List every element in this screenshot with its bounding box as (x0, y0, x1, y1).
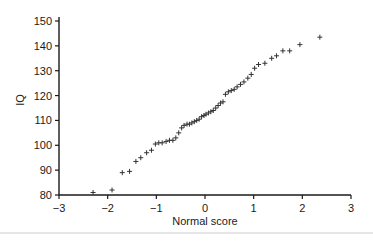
x-tick-label: −2 (101, 202, 114, 214)
y-tick-label: 120 (34, 90, 52, 102)
plus-marker (280, 48, 285, 53)
plus-marker (206, 110, 211, 115)
plus-marker (182, 123, 187, 128)
plus-marker (144, 150, 149, 155)
plus-marker (287, 48, 292, 53)
plus-marker (238, 82, 243, 87)
plus-marker (213, 106, 218, 111)
y-tick-label: 80 (40, 189, 52, 201)
axes: −3−2−101238090100110120130140150 (34, 15, 354, 214)
normal-probability-plot: −3−2−101238090100110120130140150 Normal … (0, 0, 373, 242)
plus-marker (138, 155, 143, 160)
plus-marker (176, 130, 181, 135)
x-tick-label: −3 (53, 202, 66, 214)
plus-marker (256, 62, 261, 67)
plus-marker (179, 125, 184, 130)
plus-marker (173, 135, 178, 140)
plus-marker (226, 89, 231, 94)
plus-marker (91, 190, 96, 195)
y-tick-label: 140 (34, 40, 52, 52)
plus-marker (235, 84, 240, 89)
plus-marker (297, 42, 302, 47)
plus-marker (197, 117, 202, 122)
plus-marker (218, 101, 223, 106)
plus-marker (223, 92, 228, 97)
plus-marker (252, 66, 257, 71)
plus-marker (187, 122, 192, 127)
plus-marker (216, 103, 221, 108)
x-tick-label: 1 (251, 202, 257, 214)
y-tick-label: 130 (34, 65, 52, 77)
plus-marker (149, 148, 154, 153)
y-tick-label: 100 (34, 139, 52, 151)
plus-marker (133, 159, 138, 164)
plus-marker (199, 114, 204, 119)
y-tick-label: 90 (40, 164, 52, 176)
plus-marker (160, 140, 165, 145)
plus-marker (170, 138, 175, 143)
plus-marker (232, 87, 237, 92)
x-tick-label: 3 (348, 202, 354, 214)
plus-marker (211, 108, 216, 113)
plus-marker (274, 53, 279, 58)
plus-marker (194, 118, 199, 123)
plot-canvas: −3−2−101238090100110120130140150 Normal … (0, 0, 373, 242)
x-tick-label: 0 (202, 202, 208, 214)
x-axis-label: Normal score (172, 215, 237, 227)
plus-marker (153, 142, 158, 147)
x-tick-label: 2 (299, 202, 305, 214)
plus-marker (241, 79, 246, 84)
plus-marker (262, 61, 267, 66)
plus-marker (221, 99, 226, 104)
plus-marker (110, 188, 115, 193)
y-tick-label: 150 (34, 15, 52, 27)
plus-marker (245, 76, 250, 81)
plus-marker (164, 139, 169, 144)
plus-marker (269, 56, 274, 61)
plus-marker (249, 72, 254, 77)
plus-marker (317, 35, 322, 40)
plus-marker (189, 120, 194, 125)
plus-marker (208, 109, 213, 114)
plus-marker (127, 169, 132, 174)
x-tick-label: −1 (150, 202, 163, 214)
y-axis-label: IQ (14, 94, 26, 106)
plus-marker (229, 88, 234, 93)
y-tick-label: 110 (34, 114, 52, 126)
plus-marker (120, 170, 125, 175)
divider (0, 232, 373, 234)
plus-marker (192, 119, 197, 124)
data-points (91, 35, 323, 195)
